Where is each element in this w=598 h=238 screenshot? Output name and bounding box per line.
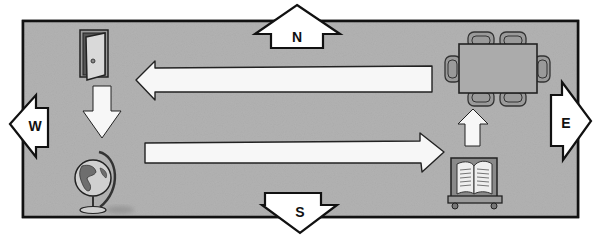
door-icon	[80, 30, 108, 80]
east-label: E	[561, 115, 570, 131]
west-label: W	[28, 118, 42, 134]
book-icon	[448, 158, 502, 209]
south-label: S	[295, 204, 304, 220]
room-map-diagram: N S W E	[0, 0, 598, 238]
north-label: N	[292, 29, 302, 45]
